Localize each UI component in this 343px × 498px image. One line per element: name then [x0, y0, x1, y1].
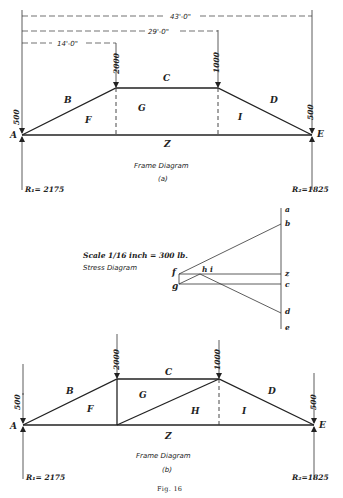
- load-left-end: 500: [12, 109, 21, 125]
- load-left-panel-b: 2000: [112, 348, 121, 371]
- space-C: C: [163, 73, 171, 83]
- figure-caption: Fig. 16: [157, 485, 182, 493]
- space-F-b: F: [86, 404, 94, 414]
- frame-diagram-title-a: Frame Diagram: [134, 162, 189, 170]
- load-right-end: 500: [306, 104, 315, 120]
- point-f: f: [171, 267, 178, 277]
- point-d: d: [285, 307, 291, 316]
- space-Z-b: Z: [164, 431, 172, 441]
- space-D-b: D: [267, 386, 276, 396]
- frame-diagram-sublabel-b: (b): [162, 466, 172, 474]
- reaction-left-b: R₁= 2175: [25, 473, 65, 482]
- load-left-end-b: 500: [13, 394, 22, 410]
- point-b: b: [285, 219, 290, 228]
- stress-diagram: Scale 1/16 inch = 300 lb. Stress Diagram…: [83, 205, 291, 332]
- truss-figure: 43'-0" 29'-0" 14'-0" 500 2000 1000 500 B…: [0, 0, 343, 498]
- point-z: z: [284, 269, 290, 278]
- load-left-panel: 2000: [112, 52, 121, 75]
- space-I: I: [237, 112, 243, 122]
- space-G: G: [138, 103, 146, 113]
- space-I-b: I: [241, 406, 247, 416]
- space-C-b: C: [165, 367, 173, 377]
- dimension-left: 14'-0": [57, 40, 78, 48]
- load-right-panel-b: 1000: [213, 348, 222, 370]
- space-F: F: [84, 115, 92, 125]
- point-hi: h i: [202, 265, 213, 274]
- reaction-right: R₂=1825: [291, 185, 329, 194]
- reaction-right-b: R₂=1825: [291, 473, 329, 482]
- reaction-left: R₁= 2175: [24, 185, 64, 194]
- load-right-end-b: 500: [309, 394, 318, 410]
- space-B-b: B: [65, 386, 74, 396]
- joint-E: E: [316, 129, 324, 139]
- point-a: a: [285, 205, 290, 214]
- dimension-total: 43'-0": [170, 13, 191, 21]
- frame-diagram-sublabel-a: (a): [158, 175, 168, 183]
- frame-diagram-a: 43'-0" 29'-0" 14'-0" 500 2000 1000 500 B…: [9, 10, 329, 194]
- space-G-b: G: [139, 390, 147, 400]
- joint-A-b: A: [9, 421, 17, 431]
- point-e: e: [285, 323, 290, 332]
- stress-scale: Scale 1/16 inch = 300 lb.: [83, 251, 188, 260]
- dimension-middle: 29'-0": [148, 28, 169, 36]
- point-g: g: [172, 281, 178, 291]
- space-B: B: [63, 95, 72, 105]
- point-c: c: [285, 280, 290, 289]
- load-right-panel: 1000: [212, 51, 221, 73]
- space-H-b: H: [190, 406, 200, 416]
- space-Z: Z: [163, 139, 171, 149]
- joint-A: A: [9, 130, 17, 140]
- frame-diagram-title-b: Frame Diagram: [136, 452, 191, 460]
- space-D: D: [269, 95, 278, 105]
- dimension-lines: 43'-0" 29'-0" 14'-0": [22, 10, 312, 48]
- stress-diagram-title: Stress Diagram: [83, 264, 137, 272]
- joint-E-b: E: [318, 420, 326, 430]
- frame-diagram-b: 500 2000 1000 500 B C D F G H I Z A E R₁…: [9, 334, 329, 482]
